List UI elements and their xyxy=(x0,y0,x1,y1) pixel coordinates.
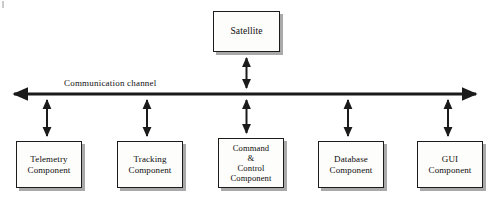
node-command-control-component[interactable]: Command & Control Component xyxy=(218,138,284,188)
node-telemetry-component[interactable]: Telemetry Component xyxy=(16,141,82,188)
architecture-diagram: Communication channel Satellite Telemetr… xyxy=(0,0,503,200)
node-satellite-label: Satellite xyxy=(214,26,279,37)
communication-channel-label: Communication channel xyxy=(64,78,156,88)
node-tracking-component[interactable]: Tracking Component xyxy=(117,141,183,188)
node-database-component[interactable]: Database Component xyxy=(318,141,384,188)
node-telemetry-label: Telemetry Component xyxy=(17,154,81,175)
node-gui-component[interactable]: GUI Component xyxy=(417,141,483,188)
node-database-label: Database Component xyxy=(319,154,383,175)
node-tracking-label: Tracking Component xyxy=(118,154,182,175)
node-gui-label: GUI Component xyxy=(418,154,482,175)
node-command-control-label: Command & Control Component xyxy=(219,143,283,184)
node-satellite[interactable]: Satellite xyxy=(213,11,280,52)
